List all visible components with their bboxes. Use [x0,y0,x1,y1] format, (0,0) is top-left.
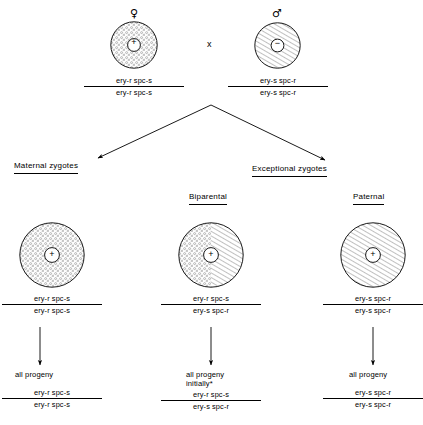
biparental-zygote-genotype: ery-r spc-s ery-s spc-r [161,294,261,315]
genotype-denominator: ery-s spc-r [161,401,261,411]
paternal-zygote-nucleus-sign: + [340,250,406,259]
genotype-denominator: ery-s spc-r [228,87,328,97]
genotype-numerator: ery-r spc-s [2,388,102,399]
genotype-denominator: ery-s spc-r [161,305,261,315]
genotype-numerator: ery-r spc-s [2,294,102,305]
paternal-zygote-genotype: ery-s spc-r ery-s spc-r [323,294,423,315]
genotype-numerator: ery-r spc-s [84,76,184,87]
paternal-parent-nucleus-sign: − [254,39,301,48]
exceptional-zygotes-heading: Exceptional zygotes [252,164,327,177]
genotype-numerator: ery-r spc-s [161,294,261,305]
branch-lines [98,105,325,160]
cross-symbol: x [207,40,212,49]
genotype-denominator: ery-s spc-r [323,399,423,409]
genotype-denominator: ery-r spc-s [2,305,102,315]
biparental-zygote-nucleus-sign: + [178,250,244,259]
biparental-progeny-genotype: ery-r spc-s ery-s spc-r [161,390,261,411]
genotype-denominator: ery-s spc-r [323,305,423,315]
genotype-numerator: ery-s spc-r [323,294,423,305]
female-sex-symbol: ♀ [124,8,144,19]
genotype-numerator: ery-s spc-r [323,388,423,399]
paternal-subheading: Paternal [353,192,384,205]
biparental-progeny-caption: all progeny [186,370,224,379]
biparental-progeny-caption-line2: initially* [186,379,213,388]
male-sex-symbol: ♂ [267,8,287,19]
paternal-parent-genotype: ery-s spc-r ery-s spc-r [228,76,328,97]
maternal-zygote-nucleus-sign: + [19,250,85,259]
biparental-subheading: Biparental [189,192,227,205]
genotype-denominator: ery-r spc-s [2,399,102,409]
maternal-progeny-genotype: ery-r spc-s ery-r spc-s [2,388,102,409]
maternal-zygotes-heading: Maternal zygotes [14,161,78,174]
maternal-progeny-caption: all progeny [15,370,53,379]
progeny-arrows [40,327,373,365]
maternal-parent-genotype: ery-r spc-s ery-r spc-s [84,76,184,97]
genotype-numerator: ery-s spc-r [228,76,328,87]
maternal-parent-nucleus-sign: + [110,38,158,47]
paternal-progeny-caption: all progeny [349,370,387,379]
genotype-numerator: ery-r spc-s [161,390,261,401]
genotype-denominator: ery-r spc-s [84,87,184,97]
paternal-progeny-genotype: ery-s spc-r ery-s spc-r [323,388,423,409]
maternal-zygote-genotype: ery-r spc-s ery-r spc-s [2,294,102,315]
